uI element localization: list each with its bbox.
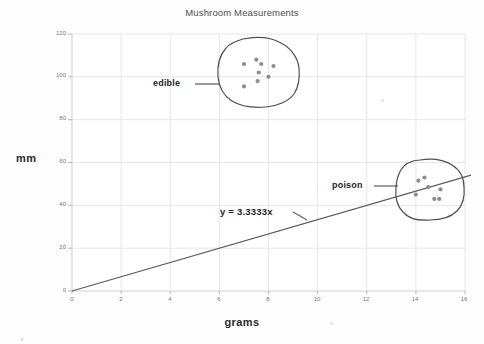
data-point [256, 79, 260, 83]
data-point [266, 75, 270, 79]
data-point [422, 175, 426, 179]
y-tick-marks [68, 34, 72, 291]
scan-speck [381, 99, 384, 102]
data-point [438, 187, 442, 191]
poison-annotation-label: poison [332, 180, 363, 190]
chart-canvas: Mushroom Measurements mm grams 120 100 8… [0, 0, 484, 344]
data-point [432, 197, 436, 201]
scan-speck [20, 338, 24, 341]
data-point [416, 179, 420, 183]
edible-annotation-label: edible [153, 78, 180, 88]
data-point [254, 58, 258, 62]
plot-area [0, 0, 484, 344]
scan-speck [330, 322, 333, 325]
data-point [426, 185, 430, 189]
data-point [257, 70, 261, 74]
data-point [437, 197, 441, 201]
data-point [414, 193, 418, 197]
data-point [271, 64, 275, 68]
trendline-equation-label: y = 3.3333x [220, 206, 273, 217]
data-point [259, 62, 263, 66]
data-point [242, 84, 246, 88]
data-point [242, 62, 246, 66]
